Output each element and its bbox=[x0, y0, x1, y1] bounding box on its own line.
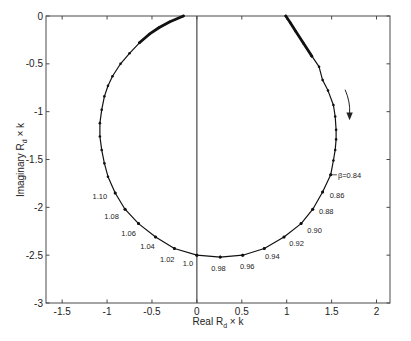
plot-area: -1.5-1-0.500.511.520-0.5-1-1.5-2-2.5-3β=… bbox=[26, 11, 390, 318]
beta-point-marker bbox=[263, 247, 266, 250]
beta-label: 0.98 bbox=[211, 264, 226, 273]
y-tick-label: 0 bbox=[37, 11, 43, 22]
beta-label: 1.04 bbox=[140, 242, 155, 251]
beta-label: 0.92 bbox=[289, 239, 304, 248]
beta-label: 1.06 bbox=[121, 229, 136, 238]
y-tick-label: -3 bbox=[34, 298, 43, 309]
curve-marker bbox=[103, 162, 106, 165]
x-tick-label: -0.5 bbox=[143, 306, 161, 317]
x-tick-label: -1.5 bbox=[54, 306, 72, 317]
beta-label: 0.86 bbox=[330, 191, 345, 200]
y-tick-label: -0.5 bbox=[26, 58, 44, 69]
curve-marker bbox=[103, 95, 106, 98]
curve-marker bbox=[335, 138, 338, 141]
curve-marker bbox=[119, 63, 122, 66]
beta-point-marker bbox=[321, 191, 324, 194]
beta-point-marker bbox=[283, 235, 286, 238]
x-tick-label: 1 bbox=[284, 306, 290, 317]
x-tick-label: -1 bbox=[103, 306, 112, 317]
beta-label: β=0.84 bbox=[338, 171, 361, 180]
curve-marker bbox=[99, 135, 102, 138]
y-tick-label: -2 bbox=[34, 202, 43, 213]
beta-label: 1.02 bbox=[160, 255, 175, 264]
curve-marker bbox=[332, 159, 335, 162]
curve-marker bbox=[332, 104, 335, 107]
y-axis-label-main: Imaginary R bbox=[15, 143, 26, 197]
y-tick-label: -1 bbox=[34, 106, 43, 117]
curve-marker bbox=[99, 122, 102, 125]
direction-arrow-shaft bbox=[345, 90, 350, 114]
y-axis-label: Imaginary Rd × k bbox=[15, 122, 28, 197]
beta-label: 1.08 bbox=[104, 212, 119, 221]
beta-label: 1.0 bbox=[183, 259, 193, 268]
curve-marker bbox=[128, 52, 131, 55]
curve-marker bbox=[327, 89, 330, 92]
beta-label: 0.96 bbox=[240, 262, 255, 271]
x-axis-label-main: Real R bbox=[193, 316, 224, 327]
x-axis-label: Real Rd × k bbox=[193, 316, 245, 329]
arrow-down-icon bbox=[346, 113, 352, 121]
beta-label: 1.10 bbox=[93, 192, 108, 201]
beta-point-marker bbox=[154, 235, 157, 238]
beta-label: 0.88 bbox=[319, 207, 334, 216]
beta-point-marker bbox=[114, 191, 117, 194]
curve-marker bbox=[111, 75, 114, 78]
curve-marker bbox=[335, 129, 338, 132]
beta-point-marker bbox=[300, 222, 303, 225]
curve-marker bbox=[107, 85, 110, 88]
y-tick-label: -1.5 bbox=[26, 154, 44, 165]
locus-curve bbox=[100, 16, 336, 257]
curve-marker bbox=[100, 149, 103, 152]
beta-point-marker bbox=[219, 256, 222, 259]
curve-marker bbox=[321, 79, 324, 82]
curve-marker bbox=[100, 108, 103, 111]
beta-point-marker bbox=[195, 254, 198, 257]
beta-point-marker bbox=[173, 247, 176, 250]
curve-marker bbox=[334, 149, 337, 152]
beta-label: 0.94 bbox=[265, 252, 280, 261]
beta-point-marker bbox=[241, 254, 244, 257]
nyquist-locus-chart: -1.5-1-0.500.511.520-0.5-1-1.5-2-2.5-3β=… bbox=[0, 0, 411, 341]
y-axis-label-suffix: × k bbox=[15, 122, 26, 139]
y-tick-label: -2.5 bbox=[26, 250, 44, 261]
dense-marker-segment bbox=[286, 16, 312, 56]
beta-point-marker bbox=[124, 208, 127, 211]
beta-point-marker bbox=[137, 222, 140, 225]
curve-marker bbox=[107, 175, 110, 178]
x-axis-label-suffix: × k bbox=[227, 316, 244, 327]
beta-label: 0.90 bbox=[307, 226, 322, 235]
x-tick-label: 1.5 bbox=[325, 306, 339, 317]
axes-frame bbox=[46, 16, 390, 303]
x-tick-label: 2 bbox=[374, 306, 380, 317]
curve-marker bbox=[334, 115, 337, 118]
beta-point-marker bbox=[311, 208, 314, 211]
curve-marker bbox=[318, 65, 321, 68]
dense-marker-segment bbox=[139, 16, 183, 43]
